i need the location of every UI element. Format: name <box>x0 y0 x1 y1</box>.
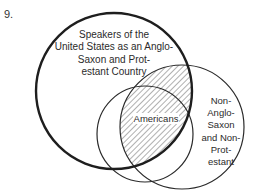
figure-number: 9. <box>4 8 13 20</box>
americans-label: Americans <box>126 113 186 125</box>
americans-label-text: Americans <box>133 113 180 124</box>
speakers-circle-label: Speakers of the United States as an Angl… <box>52 29 176 78</box>
non-anglo-saxon-label: Non- Anglo- Saxon and Non- Prot- estant <box>198 95 244 168</box>
